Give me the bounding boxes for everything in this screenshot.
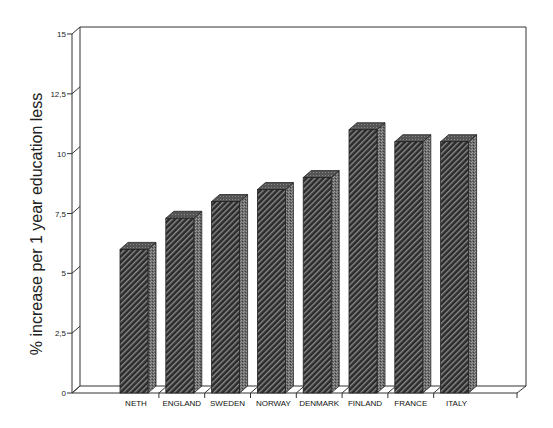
bar-chart: % increase per 1 year education less 02,… [0, 0, 553, 428]
y-axis-title: % increase per 1 year education less [28, 93, 45, 355]
y-tick-label: 5 [62, 269, 67, 278]
y-tick: 12,5 [50, 87, 80, 99]
bar-norway [257, 183, 293, 393]
bar-italy [441, 135, 477, 393]
y-tick: 2,5 [55, 326, 80, 338]
x-tick-label: FRANCE [394, 399, 427, 408]
y-tick: 7,5 [55, 207, 80, 219]
x-tick-label: DENMARK [299, 399, 340, 408]
y-tick-label: 0 [62, 389, 67, 398]
x-tick-label: ITALY [446, 399, 468, 408]
x-tick-label: FINLAND [348, 399, 382, 408]
bar-denmark [303, 171, 339, 393]
x-tick-label: SWEDEN [210, 399, 245, 408]
y-tick: 10 [57, 147, 80, 159]
bar-france [395, 135, 431, 393]
y-tick: 15 [57, 27, 80, 39]
bar-england [166, 211, 202, 393]
bar-sweden [212, 195, 248, 393]
bar-finland [349, 123, 385, 393]
bar-neth [120, 242, 156, 393]
bars [120, 123, 477, 393]
x-tick-label: ENGLAND [162, 399, 201, 408]
x-tick-label: NORWAY [256, 399, 292, 408]
y-axis-ticks: 02,557,51012,515 [50, 27, 80, 398]
y-tick-label: 2,5 [55, 329, 67, 338]
y-tick-label: 10 [57, 150, 66, 159]
y-tick: 0 [62, 386, 80, 398]
y-tick-label: 15 [57, 30, 66, 39]
y-tick-label: 12,5 [50, 90, 66, 99]
y-tick-label: 7,5 [55, 210, 67, 219]
x-tick-label: NETH [125, 399, 147, 408]
y-tick: 5 [62, 266, 80, 278]
